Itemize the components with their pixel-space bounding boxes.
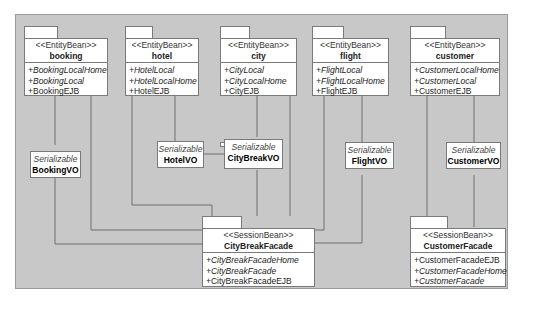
vo-name: CustomerVO xyxy=(447,156,500,167)
stereotype-label: <<EntityBean>> xyxy=(126,40,198,51)
operation: +CityBreakFacade xyxy=(206,266,311,277)
session-bean-citybreakfacade[interactable]: <<SessionBean>> CityBreakFacade +CityBre… xyxy=(202,228,315,287)
operation: +CityBreakFacadeEJB xyxy=(206,276,311,287)
bean-name: flight xyxy=(313,51,388,62)
operation: +CustomerFacadeHome xyxy=(414,266,502,277)
flight-bean-tab xyxy=(312,26,344,38)
value-object-flightvo[interactable]: Serializable FlightVO xyxy=(345,142,394,169)
entity-bean-customer[interactable]: <<EntityBean>> customer +CustomerLocalHo… xyxy=(410,38,500,96)
bean-name: CityBreakFacade xyxy=(203,241,314,252)
entity-bean-booking[interactable]: <<EntityBean>> booking +BookingLocalHome… xyxy=(24,38,108,96)
operation: +CityLocal xyxy=(224,65,293,76)
entity-bean-hotel[interactable]: <<EntityBean>> hotel +HotelLocal +HotelL… xyxy=(125,38,199,96)
operation: +HotelLocal xyxy=(129,65,195,76)
entity-bean-flight[interactable]: <<EntityBean>> flight +FlightLocal +Flig… xyxy=(312,38,389,96)
bean-name: CustomerFacade xyxy=(411,241,505,252)
bean-name: city xyxy=(221,51,296,62)
customerfacade-tab xyxy=(410,216,448,228)
stereotype-label: <<EntityBean>> xyxy=(221,40,296,51)
operation: +HotelEJB xyxy=(129,86,195,97)
stereotype-label: Serializable xyxy=(31,154,80,165)
stereotype-label: <<SessionBean>> xyxy=(411,230,505,241)
customer-bean-tab xyxy=(410,26,446,38)
operation: +FlightEJB xyxy=(316,86,385,97)
operation: +CityEJB xyxy=(224,86,293,97)
operation: +CityBreakFacadeHome xyxy=(206,255,311,266)
operation: +BookingEJB xyxy=(28,86,104,97)
vo-name: FlightVO xyxy=(346,156,393,167)
vo-name: BookingVO xyxy=(31,165,80,176)
operation: +HotelLocalHome xyxy=(129,76,195,87)
bean-name: booking xyxy=(25,51,107,62)
stereotype-label: <<EntityBean>> xyxy=(411,40,499,51)
stereotype-label: <<EntityBean>> xyxy=(313,40,388,51)
vo-name: CityBreakVO xyxy=(225,153,282,164)
stereotype-label: Serializable xyxy=(346,145,393,156)
value-object-hotelvo[interactable]: Serializable HotelVO xyxy=(157,141,204,168)
value-object-bookingvo[interactable]: Serializable BookingVO xyxy=(30,151,81,178)
citybreakfacade-tab xyxy=(202,216,242,228)
operation: +BookingLocal xyxy=(28,76,104,87)
value-object-citybreakvo[interactable]: Serializable CityBreakVO xyxy=(224,139,283,169)
operation: +CustomerFacadeEJB xyxy=(414,255,502,266)
operation: +CustomerFacade xyxy=(414,276,502,287)
operation: +FlightLocal xyxy=(316,65,385,76)
operation: +BookingLocalHome xyxy=(28,65,104,76)
operation: +CustomerEJB xyxy=(414,86,496,97)
hotel-bean-tab xyxy=(125,26,153,38)
operation: +CustomerLocalHome xyxy=(414,65,496,76)
bean-name: customer xyxy=(411,51,499,62)
booking-bean-tab xyxy=(24,26,58,38)
entity-bean-city[interactable]: <<EntityBean>> city +CityLocal +CityLoca… xyxy=(220,38,297,96)
stereotype-label: Serializable xyxy=(158,144,203,155)
stereotype-label: Serializable xyxy=(225,142,282,153)
stereotype-label: <<EntityBean>> xyxy=(25,40,107,51)
city-bean-tab xyxy=(220,26,250,38)
operation: +CustomerLocal xyxy=(414,76,496,87)
session-bean-customerfacade[interactable]: <<SessionBean>> CustomerFacade +Customer… xyxy=(410,228,506,287)
vo-name: HotelVO xyxy=(158,155,203,166)
stereotype-label: <<SessionBean>> xyxy=(203,230,314,241)
operation: +FlightLocalHome xyxy=(316,76,385,87)
bean-name: hotel xyxy=(126,51,198,62)
stereotype-label: Serializable xyxy=(447,145,500,156)
value-object-customervo[interactable]: Serializable CustomerVO xyxy=(446,142,501,169)
operation: +CityLocalHome xyxy=(224,76,293,87)
